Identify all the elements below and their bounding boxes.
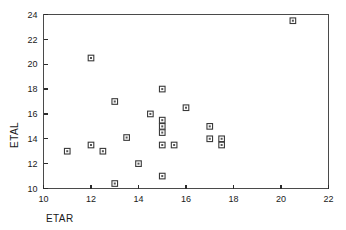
marker-center	[90, 144, 92, 146]
y-tick-label: 10	[27, 184, 37, 194]
data-point	[207, 136, 213, 142]
marker-center	[185, 107, 187, 109]
data-point	[183, 105, 189, 111]
marker-center	[90, 57, 92, 59]
marker-center	[161, 175, 163, 177]
x-tick-label: 16	[181, 194, 191, 204]
data-point	[159, 142, 165, 148]
marker-center	[209, 138, 211, 140]
marker-center	[126, 137, 128, 139]
x-tick-label: 12	[86, 194, 96, 204]
data-point	[88, 55, 94, 61]
data-points	[64, 18, 295, 186]
marker-center	[66, 150, 68, 152]
marker-center	[161, 132, 163, 134]
y-tick-label: 22	[27, 35, 37, 45]
data-point	[159, 86, 165, 92]
data-point	[64, 148, 70, 154]
marker-center	[221, 138, 223, 140]
x-axis-title: ETAR	[46, 213, 74, 224]
marker-center	[114, 183, 116, 185]
x-tick-label: 14	[133, 194, 143, 204]
y-tick-label: 24	[27, 10, 37, 20]
marker-center	[102, 150, 104, 152]
data-point	[112, 181, 118, 187]
y-tick-label: 12	[27, 159, 37, 169]
data-point	[159, 130, 165, 136]
y-axis-title: ETAL	[9, 122, 20, 148]
data-point	[124, 135, 130, 141]
scatter-chart: 1012141618202224 10121416182022 ETAR ETA…	[0, 0, 346, 230]
data-point	[100, 148, 106, 154]
marker-center	[161, 88, 163, 90]
data-point	[219, 136, 225, 142]
data-point	[219, 142, 225, 148]
data-point	[136, 161, 142, 167]
data-point	[88, 142, 94, 148]
data-point	[171, 142, 177, 148]
data-point	[112, 99, 118, 105]
x-tick-label: 20	[276, 194, 286, 204]
x-tick-label: 10	[38, 194, 48, 204]
y-tick-label: 18	[27, 84, 37, 94]
scatter-plot-canvas: 1012141618202224 10121416182022 ETAR ETA…	[0, 0, 346, 230]
marker-center	[114, 101, 116, 103]
marker-center	[149, 113, 151, 115]
y-tick-label: 14	[27, 134, 37, 144]
data-point	[159, 117, 165, 123]
x-axis: 10121416182022	[38, 185, 333, 204]
x-tick-label: 18	[228, 194, 238, 204]
data-point	[148, 111, 154, 117]
marker-center	[161, 144, 163, 146]
marker-center	[161, 119, 163, 121]
data-point	[159, 173, 165, 179]
marker-center	[292, 20, 294, 22]
y-axis: 1012141618202224	[27, 10, 47, 194]
marker-center	[138, 163, 140, 165]
y-tick-label: 20	[27, 59, 37, 69]
data-point	[290, 18, 296, 24]
data-point	[207, 124, 213, 130]
plot-frame	[44, 15, 329, 189]
data-point	[159, 124, 165, 130]
y-tick-label: 16	[27, 109, 37, 119]
x-tick-label: 22	[323, 194, 333, 204]
marker-center	[161, 125, 163, 127]
marker-center	[209, 125, 211, 127]
marker-center	[221, 144, 223, 146]
marker-center	[173, 144, 175, 146]
